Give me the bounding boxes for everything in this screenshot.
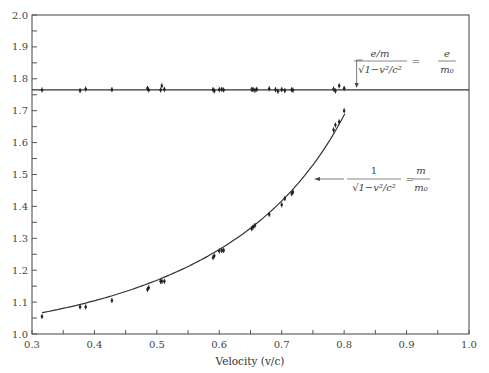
x-tick-label: 0.3 (24, 339, 40, 350)
x-tick-label: 0.8 (336, 339, 352, 350)
annotation-mass-denominator: √1−v²/c² (352, 182, 396, 193)
y-tick-label: 1.5 (12, 169, 28, 180)
y-tick-label: 1.3 (12, 233, 28, 244)
x-tick-label: 0.9 (399, 339, 415, 350)
annotation-em-denominator: √1−v²/c² (358, 64, 402, 75)
data-points (41, 83, 346, 319)
y-tick-label: 1.7 (12, 105, 28, 116)
chart: 0.30.40.50.60.70.80.91.01.01.11.21.31.41… (0, 0, 489, 373)
y-tick-label: 2.0 (12, 10, 28, 21)
x-tick-label: 1.0 (461, 339, 477, 350)
y-tick-label: 1.1 (12, 297, 28, 308)
annotation-mass-numerator: 1 (371, 165, 377, 176)
y-tick-label: 1.9 (12, 41, 28, 52)
x-tick-label: 0.7 (274, 339, 290, 350)
annotation-em-numerator: e/m (371, 48, 390, 59)
annotation-em-rhs-den: m₀ (440, 64, 454, 75)
svg-text:=: = (406, 174, 414, 185)
annotations: e/m√1−v²/c²=em₀1√1−v²/c²=mm₀ (314, 48, 456, 193)
x-tick-label: 0.6 (211, 339, 227, 350)
y-tick-label: 1.2 (12, 265, 28, 276)
annotation-mass-rhs-den: m₀ (414, 182, 428, 193)
mass-ratio-curve (42, 114, 345, 313)
annotation-em-rhs-num: e (444, 48, 450, 59)
y-tick-label: 1.8 (12, 73, 28, 84)
annotation-mass-rhs-num: m (416, 165, 425, 176)
y-tick-label: 1.6 (12, 137, 28, 148)
y-tick-label: 1.0 (12, 329, 28, 340)
y-tick-label: 1.4 (12, 201, 28, 212)
data-curves (32, 90, 469, 313)
x-tick-label: 0.4 (86, 339, 102, 350)
svg-text:=: = (412, 56, 420, 67)
plot-frame (32, 15, 469, 334)
x-axis-label: Velocity (v/c) (215, 355, 285, 367)
x-tick-label: 0.5 (149, 339, 165, 350)
